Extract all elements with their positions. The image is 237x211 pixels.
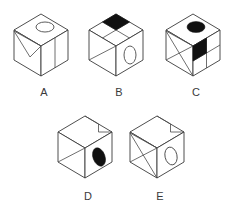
cube-option-b[interactable]: B (89, 14, 143, 98)
cube-c-label: C (192, 86, 200, 98)
cube-option-e[interactable]: E (130, 116, 184, 202)
cube-a-label: A (40, 86, 48, 98)
cube-b-label: B (115, 86, 122, 98)
cube-e-label: E (156, 190, 163, 202)
cube-option-a[interactable]: A (14, 14, 68, 98)
cube-option-d[interactable]: D (58, 116, 112, 202)
cube-d-label: D (84, 190, 92, 202)
cube-c-top-ellipse (187, 22, 205, 33)
cube-options-figure: A B C (0, 0, 237, 211)
cube-option-c[interactable]: C (166, 14, 220, 98)
